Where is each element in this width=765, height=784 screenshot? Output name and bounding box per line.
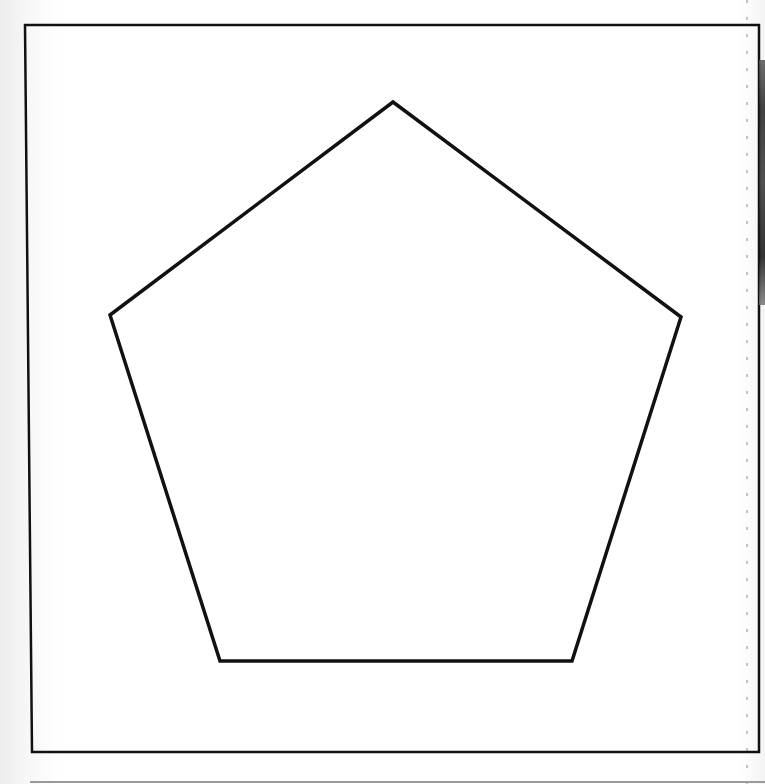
page-background — [0, 0, 765, 784]
pentagon-shape — [110, 102, 681, 661]
scan-bottom-edge — [30, 781, 765, 783]
scan-edge-shadow — [759, 60, 765, 305]
diagram-canvas — [0, 0, 765, 784]
